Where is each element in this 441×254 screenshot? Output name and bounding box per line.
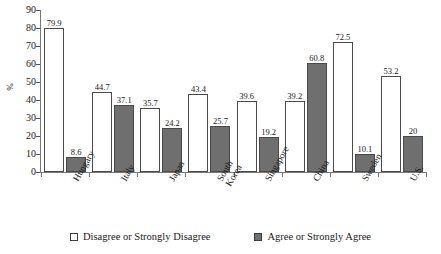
bar-value-label: 44.7: [95, 83, 110, 92]
bar-group: 43.425.7: [187, 10, 231, 172]
bar-disagree[interactable]: 53.2: [381, 76, 401, 172]
bar-value-label: 79.9: [47, 19, 62, 28]
bar-value-label: 10.1: [357, 145, 372, 154]
bar-disagree[interactable]: 39.2: [285, 101, 305, 172]
chart-legend: Disagree or Strongly Disagree Agree or S…: [0, 231, 441, 242]
y-tick-label: 80: [16, 23, 36, 33]
x-tick-mark: [330, 172, 331, 177]
plot-area: 79.98.644.737.135.724.243.425.739.619.23…: [41, 10, 426, 172]
legend-label-agree: Agree or Strongly Agree: [267, 231, 371, 242]
y-tick-label-text: 0: [16, 167, 36, 177]
bar-group: 39.260.8: [284, 10, 328, 172]
bar-disagree[interactable]: 43.4: [188, 94, 208, 172]
bar-value-label: 37.1: [117, 96, 132, 105]
x-tick-mark: [185, 172, 186, 177]
bar-value-label: 20: [409, 127, 418, 136]
x-tick-mark: [137, 172, 138, 177]
bar-disagree[interactable]: 72.5: [333, 42, 353, 173]
y-tick-label: 60: [16, 59, 36, 69]
y-tick-label-text: 50: [16, 77, 36, 87]
bar-value-label: 35.7: [143, 99, 158, 108]
y-tick-label: 30: [16, 113, 36, 123]
bar-value-label: 25.7: [213, 117, 228, 126]
bar-value-label: 60.8: [309, 54, 324, 63]
bar-value-label: 72.5: [335, 33, 350, 42]
bar-value-label: 43.4: [191, 85, 206, 94]
x-tick-mark: [426, 172, 427, 177]
bar-chart: % 9080706050403020100 79.98.644.737.135.…: [0, 0, 441, 254]
bar-disagree[interactable]: 35.7: [140, 108, 160, 172]
bar-group: 53.220: [380, 10, 424, 172]
bar-value-label: 8.6: [71, 148, 82, 157]
bar-value-label: 39.6: [239, 92, 254, 101]
bar-group: 39.619.2: [236, 10, 280, 172]
x-tick-mark: [378, 172, 379, 177]
legend-label-disagree: Disagree or Strongly Disagree: [83, 231, 210, 242]
bar-group: 72.510.1: [332, 10, 376, 172]
y-tick-label-text: 60: [16, 59, 36, 69]
bar-group: 35.724.2: [139, 10, 183, 172]
bar-agree[interactable]: 60.8: [307, 63, 327, 172]
y-tick-label-text: 80: [16, 23, 36, 33]
bar-group: 79.98.6: [43, 10, 87, 172]
y-tick-label: 40: [16, 95, 36, 105]
filled-square-swatch-icon: [254, 233, 262, 241]
bar-group: 44.737.1: [91, 10, 135, 172]
legend-item-disagree[interactable]: Disagree or Strongly Disagree: [70, 231, 210, 242]
y-tick-label: 0: [16, 167, 36, 177]
x-tick-mark: [89, 172, 90, 177]
y-tick-label-text: 30: [16, 113, 36, 123]
y-tick-label: 50: [16, 77, 36, 87]
y-tick-label: 90: [16, 5, 36, 15]
bar-agree[interactable]: 37.1: [114, 105, 134, 172]
bar-value-label: 19.2: [261, 128, 276, 137]
bar-value-label: 53.2: [384, 67, 399, 76]
open-square-swatch-icon: [70, 233, 78, 241]
bar-disagree[interactable]: 39.6: [237, 101, 257, 172]
y-tick-label-text: 70: [16, 41, 36, 51]
y-tick-label: 10: [16, 149, 36, 159]
y-tick-label-text: 90: [16, 5, 36, 15]
bar-disagree[interactable]: 44.7: [92, 92, 112, 172]
y-tick-label: 20: [16, 131, 36, 141]
x-tick-mark: [41, 172, 42, 177]
y-tick-label-text: 20: [16, 131, 36, 141]
bar-value-label: 24.2: [165, 119, 180, 128]
y-axis-title: %: [5, 79, 15, 95]
bar-disagree[interactable]: 79.9: [44, 28, 64, 172]
y-tick-label: 70: [16, 41, 36, 51]
x-tick-mark: [282, 172, 283, 177]
y-tick-label-text: 10: [16, 149, 36, 159]
y-tick-label-text: 40: [16, 95, 36, 105]
legend-item-agree[interactable]: Agree or Strongly Agree: [254, 231, 371, 242]
bar-value-label: 39.2: [287, 92, 302, 101]
